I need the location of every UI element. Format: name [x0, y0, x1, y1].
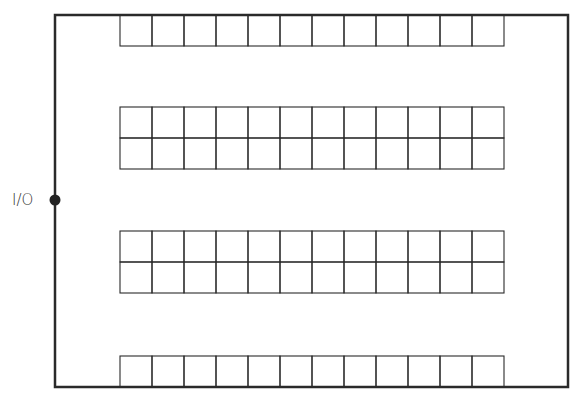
storage-cell	[152, 262, 184, 293]
storage-cell	[408, 107, 440, 138]
storage-cell	[152, 138, 184, 169]
storage-cell	[216, 15, 248, 46]
storage-cell	[408, 356, 440, 387]
storage-cell	[280, 356, 312, 387]
storage-cell	[312, 138, 344, 169]
storage-cell	[280, 15, 312, 46]
storage-cell	[120, 138, 152, 169]
storage-cell	[120, 15, 152, 46]
storage-cell	[376, 15, 408, 46]
storage-cell	[248, 356, 280, 387]
storage-cell	[216, 138, 248, 169]
io-point-dot	[50, 195, 61, 206]
storage-cell	[184, 231, 216, 262]
storage-cell	[376, 262, 408, 293]
storage-cell	[376, 138, 408, 169]
storage-cell	[472, 138, 504, 169]
storage-cell	[120, 262, 152, 293]
storage-cell	[344, 356, 376, 387]
io-label: I/O	[12, 191, 33, 209]
storage-cell	[376, 356, 408, 387]
storage-cell	[312, 231, 344, 262]
storage-cell	[344, 231, 376, 262]
storage-cell	[344, 138, 376, 169]
storage-cell	[312, 356, 344, 387]
warehouse-boundary	[55, 15, 568, 387]
storage-cell	[216, 262, 248, 293]
storage-cell	[408, 15, 440, 46]
storage-cell	[440, 231, 472, 262]
storage-cell	[280, 231, 312, 262]
storage-cell	[440, 356, 472, 387]
storage-cell	[440, 138, 472, 169]
storage-cell	[120, 107, 152, 138]
storage-cell	[152, 15, 184, 46]
storage-cell	[312, 262, 344, 293]
storage-cell	[152, 231, 184, 262]
storage-cell	[344, 15, 376, 46]
storage-cell	[184, 356, 216, 387]
storage-cell	[248, 138, 280, 169]
storage-cell	[216, 107, 248, 138]
storage-cell	[248, 262, 280, 293]
storage-cell	[280, 107, 312, 138]
storage-cell	[472, 262, 504, 293]
storage-cell	[312, 15, 344, 46]
storage-cell	[376, 107, 408, 138]
storage-cell	[408, 138, 440, 169]
storage-cell	[472, 107, 504, 138]
storage-cell	[408, 262, 440, 293]
storage-cell	[216, 356, 248, 387]
storage-cell	[152, 356, 184, 387]
storage-cell	[440, 262, 472, 293]
storage-cell	[120, 231, 152, 262]
layout-canvas	[0, 0, 581, 400]
storage-cell	[152, 107, 184, 138]
storage-cell	[248, 231, 280, 262]
storage-cell	[184, 138, 216, 169]
storage-cell	[280, 262, 312, 293]
storage-cell	[216, 231, 248, 262]
storage-cell	[280, 138, 312, 169]
storage-cell	[440, 107, 472, 138]
storage-cell	[472, 231, 504, 262]
storage-cell	[184, 15, 216, 46]
storage-cell	[472, 356, 504, 387]
storage-cell	[376, 231, 408, 262]
storage-cell	[440, 15, 472, 46]
storage-cell	[120, 356, 152, 387]
storage-cell	[344, 262, 376, 293]
storage-cell	[312, 107, 344, 138]
storage-cell	[248, 107, 280, 138]
storage-cell	[184, 107, 216, 138]
storage-cell	[472, 15, 504, 46]
storage-cell	[184, 262, 216, 293]
storage-cell	[344, 107, 376, 138]
storage-cell	[408, 231, 440, 262]
storage-cell	[248, 15, 280, 46]
